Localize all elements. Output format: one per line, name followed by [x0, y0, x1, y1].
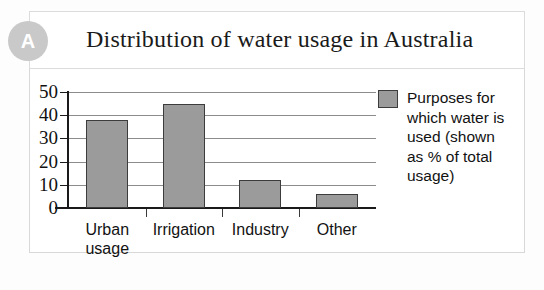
- y-axis-label: 0: [18, 197, 58, 219]
- y-axis-label: 10: [18, 174, 58, 196]
- y-axis-label: 40: [18, 104, 58, 126]
- legend-label: Purposes forwhich water isused (shownas …: [407, 88, 519, 186]
- legend-line: as % of total: [407, 147, 519, 167]
- legend-line: Purposes for: [407, 88, 519, 108]
- y-axis-label: 30: [18, 127, 58, 149]
- legend-line: which water is: [407, 108, 519, 128]
- x-axis-category-label: Urbanusage: [69, 220, 146, 258]
- x-axis-tick: [146, 209, 147, 217]
- legend-line: usage): [407, 166, 519, 186]
- gridline: [68, 92, 376, 93]
- x-axis-tick: [299, 209, 300, 217]
- figure-container: Distribution of water usage in Australia…: [0, 0, 544, 290]
- x-axis-category-label: Other: [299, 220, 376, 239]
- bar: [163, 104, 205, 208]
- legend-swatch-icon: [378, 90, 398, 108]
- bar: [86, 120, 128, 208]
- bar: [239, 180, 281, 208]
- chart-panel: 01020304050UrbanusageIrrigationIndustryO…: [30, 70, 524, 252]
- page-title: Distribution of water usage in Australia: [86, 26, 473, 53]
- gridline: [68, 115, 376, 116]
- y-axis-line: [67, 91, 69, 208]
- section-badge: A: [8, 21, 48, 61]
- x-axis-tick: [222, 209, 223, 217]
- y-axis-label: 20: [18, 151, 58, 173]
- x-axis-category-label: Industry: [222, 220, 299, 239]
- title-bar: Distribution of water usage in Australia: [29, 11, 525, 69]
- legend-line: used (shown: [407, 127, 519, 147]
- bar: [316, 194, 358, 208]
- y-axis-label: 50: [18, 81, 58, 103]
- x-axis-category-label: Irrigation: [146, 220, 223, 239]
